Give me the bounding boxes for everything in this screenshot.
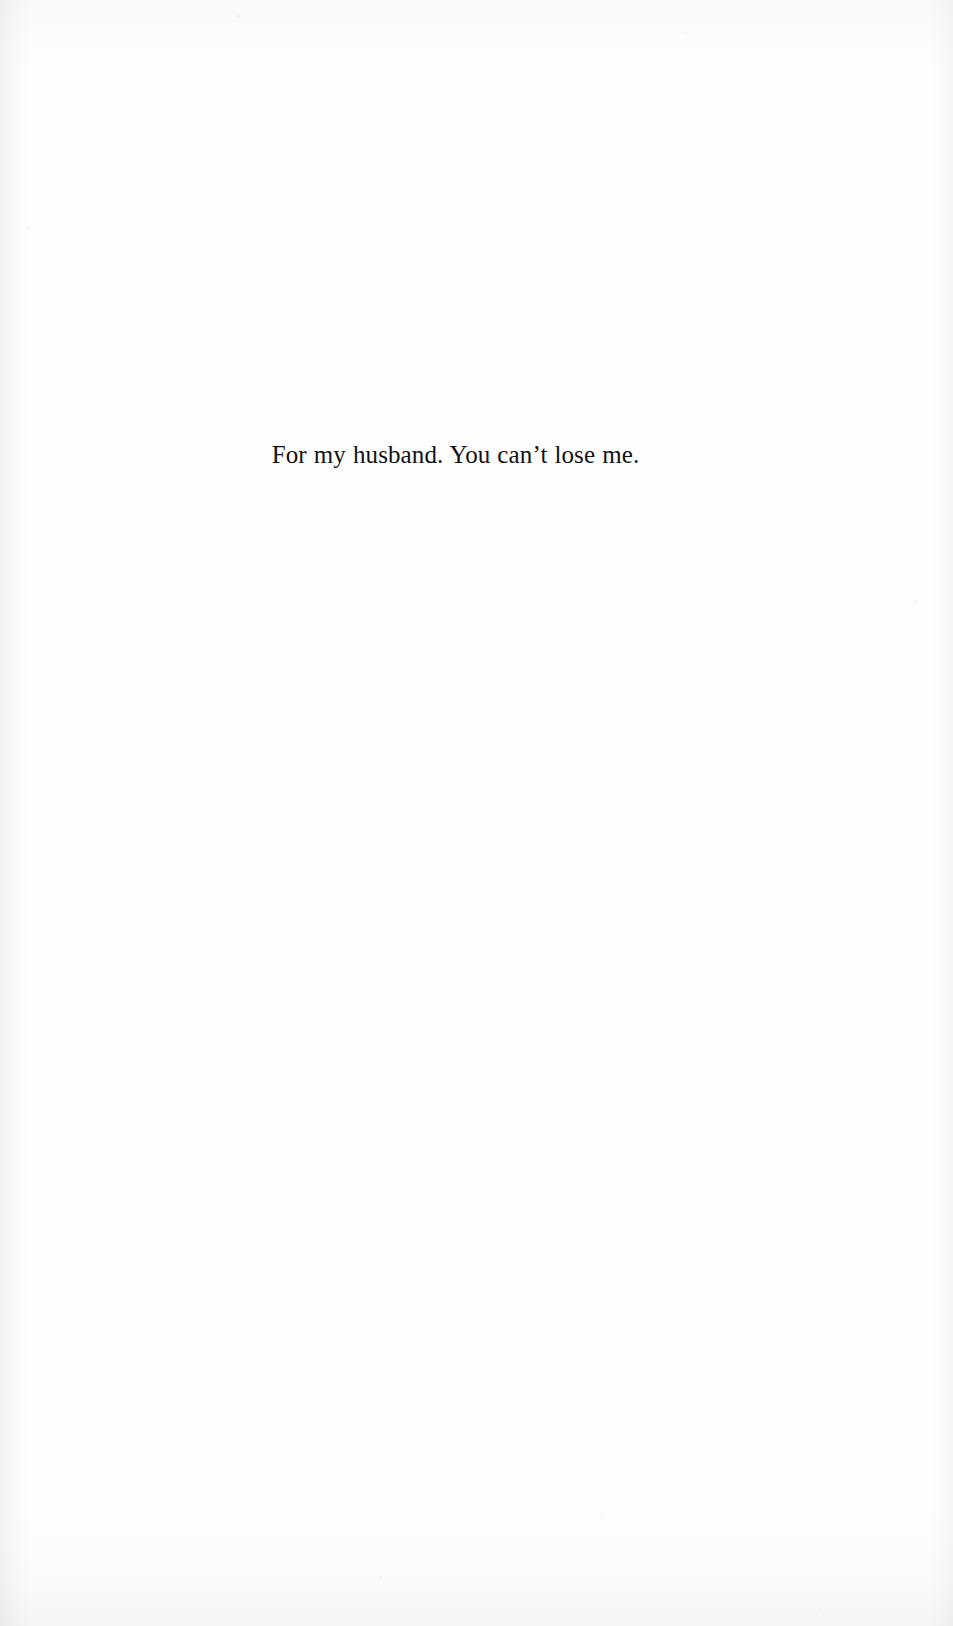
scan-vignette-top [0,0,953,70]
dedication-page: For my husband. You can’t lose me. [0,0,953,1626]
scan-vignette-right [927,0,953,1626]
scan-speckle-texture [0,0,953,1626]
dedication-block: For my husband. You can’t lose me. [0,441,953,468]
dedication-text: For my husband. You can’t lose me. [272,441,640,468]
scan-vignette-bottom [0,1506,953,1626]
scan-vignette-left [0,0,34,1626]
